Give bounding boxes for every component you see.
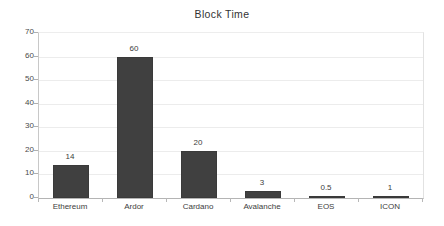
x-tick-mark	[38, 198, 39, 202]
x-axis: EthereumArdorCardanoAvalancheEOSICON	[38, 202, 422, 218]
bar[interactable]	[309, 196, 345, 198]
y-tick-mark	[34, 126, 38, 127]
y-axis: 010203040506070	[0, 32, 34, 197]
chart-title: Block Time	[0, 8, 444, 20]
y-tick-label: 10	[4, 169, 34, 177]
x-tick-mark	[230, 198, 231, 202]
gridline	[39, 174, 423, 175]
bar-value-label: 1	[360, 184, 420, 192]
gridline	[39, 151, 423, 152]
x-tick-mark	[102, 198, 103, 202]
gridline	[39, 80, 423, 81]
y-tick-mark	[34, 173, 38, 174]
y-tick-label: 40	[4, 99, 34, 107]
y-tick-label: 30	[4, 122, 34, 130]
x-tick-label: ICON	[345, 202, 435, 211]
bar-value-label: 20	[168, 139, 228, 147]
y-tick-label: 20	[4, 146, 34, 154]
bar-value-label: 60	[104, 45, 164, 53]
y-tick-label: 70	[4, 28, 34, 36]
gridline	[39, 127, 423, 128]
bar-chart: Block Time 010203040506070 EthereumArdor…	[0, 0, 444, 226]
bar-value-label: 14	[40, 153, 100, 161]
y-tick-label: 60	[4, 52, 34, 60]
bar[interactable]	[117, 57, 153, 198]
y-tick-mark	[34, 32, 38, 33]
y-tick-mark	[34, 150, 38, 151]
bar-value-label: 0.5	[296, 184, 356, 192]
gridline	[39, 104, 423, 105]
y-tick-mark	[34, 56, 38, 57]
bar[interactable]	[245, 191, 281, 198]
plot-area	[38, 32, 424, 199]
x-tick-mark	[294, 198, 295, 202]
bar-value-label: 3	[232, 179, 292, 187]
gridline	[39, 57, 423, 58]
y-tick-label: 50	[4, 75, 34, 83]
y-tick-label: 0	[4, 193, 34, 201]
x-tick-mark	[358, 198, 359, 202]
x-tick-mark	[166, 198, 167, 202]
y-tick-mark	[34, 79, 38, 80]
x-tick-mark	[422, 198, 423, 202]
bar[interactable]	[373, 196, 409, 198]
bar[interactable]	[53, 165, 89, 198]
bar[interactable]	[181, 151, 217, 198]
y-tick-mark	[34, 103, 38, 104]
